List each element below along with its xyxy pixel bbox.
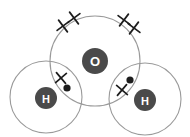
oxygen-lone-cross-4 <box>128 22 140 34</box>
oxygen-symbol-label: O <box>90 54 100 69</box>
hydrogen-right-symbol-label: H <box>141 95 149 107</box>
bond-right-dot <box>126 76 133 83</box>
electron-shells-group <box>10 16 181 135</box>
h2o-dot-and-cross-diagram: O H H <box>0 0 190 137</box>
bonding-pair-right-group <box>117 76 134 95</box>
bond-left-cross <box>56 73 67 84</box>
hydrogen-left-symbol-label: H <box>42 93 50 105</box>
bond-left-dot <box>63 84 70 91</box>
diagram-canvas: O H H <box>0 0 190 137</box>
bonding-pair-left-group <box>56 73 71 92</box>
bond-right-cross <box>117 85 128 96</box>
oxygen-lone-cross-2 <box>68 12 80 24</box>
